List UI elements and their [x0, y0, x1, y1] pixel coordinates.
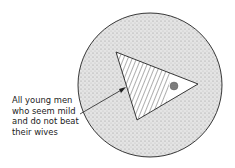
- label-line-3: and do not beat: [12, 116, 92, 127]
- label-line-4: their wives: [12, 127, 92, 138]
- label-line-2: who seem mild: [12, 106, 92, 117]
- diagram-canvas: [0, 0, 235, 168]
- subset-label: All young men who seem mild and do not b…: [12, 95, 92, 137]
- label-line-1: All young men: [12, 95, 92, 106]
- small-dot: [170, 82, 178, 90]
